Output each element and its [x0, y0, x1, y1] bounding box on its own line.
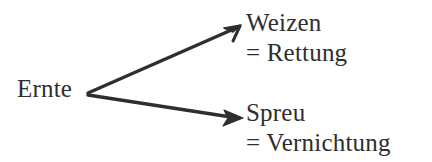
node-label-spreu: Spreu — [246, 98, 305, 127]
node-label-weizen-equals: = Rettung — [246, 38, 347, 67]
node-label-spreu-equals: = Vernichtung — [246, 128, 391, 157]
arrow-to-weizen — [88, 25, 241, 93]
node-label-ernte: Ernte — [17, 74, 72, 104]
diagram-canvas: Ernte Weizen = Rettung Spreu = Vernichtu… — [0, 0, 432, 162]
arrow-to-spreu — [88, 95, 243, 126]
node-label-weizen: Weizen — [246, 8, 322, 37]
